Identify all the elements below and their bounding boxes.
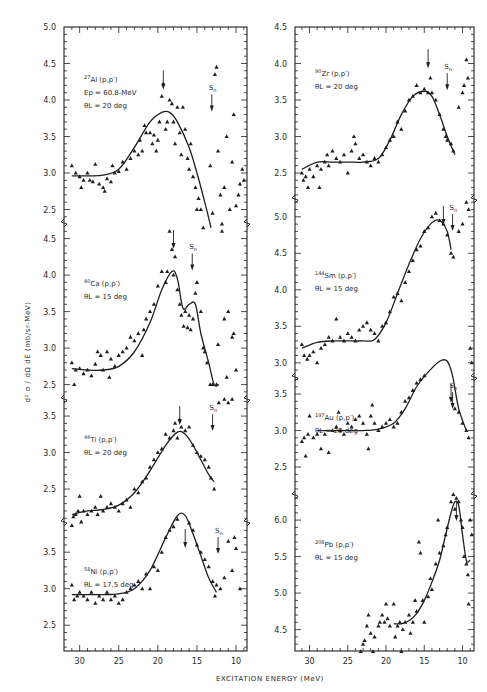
sn-threshold-label: Sn xyxy=(189,243,197,252)
y-tick-label: 3.0 xyxy=(43,585,56,594)
x-axis-title: EXCITATION ENERGY (MeV) xyxy=(216,675,324,683)
nucleus-reaction-label: 144Sm (p,p′) xyxy=(315,270,356,280)
nucleus-reaction-label: 27Al (p,p′) xyxy=(84,74,118,84)
panel-46Ti: 3.53.02.5Sn46Ti (p,p′)θL = 20 deg xyxy=(43,395,250,527)
sn-threshold-label: Sn xyxy=(209,84,217,93)
y-tick-label: 3.5 xyxy=(274,390,287,399)
sn-threshold-label: Sn xyxy=(450,382,458,391)
nucleus-reaction-label: 46Ti (p,p′) xyxy=(84,434,117,444)
scattering-angle-label: θL = 20 deg xyxy=(84,449,127,457)
y-tick-label: 5.0 xyxy=(274,589,287,598)
x-tick-label: 30 xyxy=(75,657,85,666)
y-tick-label: 3.5 xyxy=(274,96,287,105)
y-tick-label: 2.5 xyxy=(43,206,56,215)
nucleus-reaction-label: 90Zr (p,p′) xyxy=(315,68,350,78)
y-tick-label: 5.0 xyxy=(43,23,56,32)
y-tick-label: 2.5 xyxy=(274,463,287,472)
scattering-angle-label: θL = 17.5 deg xyxy=(84,581,134,589)
y-tick-label: 3.5 xyxy=(43,308,56,317)
panel-208Pb: 6.05.55.04.5208Pb (p,p′)θL = 15 deg xyxy=(274,491,477,653)
sn-threshold-label: Sn xyxy=(450,204,458,213)
scattering-angle-label: θL = 15 deg xyxy=(315,554,358,562)
data-points xyxy=(300,200,474,364)
fit-curve xyxy=(302,91,455,169)
x-tick-label: 20 xyxy=(381,657,391,666)
plot-layer: 30252015105.04.54.03.53.02.5Sn27Al (p,p′… xyxy=(43,23,477,666)
spectra-column-1: 30252015105.04.54.03.53.02.5Sn27Al (p,p′… xyxy=(43,23,250,666)
panel-90Zr: 4.54.03.53.02.5Sn90Zr (p,p′)θL = 20 deg xyxy=(274,23,474,195)
plot-frame xyxy=(64,27,247,651)
y-tick-label: 4.5 xyxy=(43,235,56,244)
y-tick-label: 4.5 xyxy=(274,626,287,635)
nucleus-reaction-label: 58Ni (p,p′) xyxy=(84,566,118,576)
y-tick-label: 3.0 xyxy=(274,427,287,436)
y-tick-label: 4.0 xyxy=(274,60,287,69)
scattering-angle-label: θL = 20 deg xyxy=(315,427,358,435)
nucleus-reaction-label: 40Ca (p,p′) xyxy=(84,278,120,288)
y-axis-title: d² σ / dΩ dE (mb/sr-MeV) xyxy=(24,301,32,402)
y-tick-label: 2.5 xyxy=(43,485,56,494)
y-tick-label: 2.5 xyxy=(274,169,287,178)
x-tick-label: 25 xyxy=(114,657,124,666)
y-tick-label: 4.0 xyxy=(274,286,287,295)
x-tick-label: 25 xyxy=(343,657,353,666)
y-tick-label: 5.0 xyxy=(274,213,287,222)
x-tick-label: 10 xyxy=(457,657,467,666)
sn-threshold-label: Sn xyxy=(210,404,218,413)
y-tick-label: 3.0 xyxy=(274,133,287,142)
panel-58Ni: 3.53.02.5Sn58Ni (p,p′)θL = 17.5 deg xyxy=(43,513,250,647)
nucleus-reaction-label: 208Pb (p,p′) xyxy=(315,539,354,549)
y-tick-label: 3.5 xyxy=(43,548,56,557)
panel-40Ca: 4.54.03.53.02.5Sn40Ca (p,p′)θL = 15 deg xyxy=(43,219,250,404)
y-tick-label: 3.5 xyxy=(43,133,56,142)
y-tick-label: 2.5 xyxy=(43,621,56,630)
y-tick-label: 3.5 xyxy=(43,412,56,421)
scattering-angle-label: θL = 15 deg xyxy=(315,285,358,293)
y-tick-label: 4.0 xyxy=(43,96,56,105)
y-tick-label: 3.0 xyxy=(274,359,287,368)
y-tick-label: 4.5 xyxy=(274,23,287,32)
sn-threshold-label: Sn xyxy=(444,63,452,72)
x-tick-label: 15 xyxy=(192,657,202,666)
y-tick-label: 3.0 xyxy=(43,449,56,458)
spectra-column-2: 30252015104.54.03.53.02.5Sn90Zr (p,p′)θL… xyxy=(274,23,477,666)
excitation-energy-spectra-figure: 30252015105.04.54.03.53.02.5Sn27Al (p,p′… xyxy=(0,0,487,692)
x-tick-label: 20 xyxy=(153,657,163,666)
y-tick-label: 4.0 xyxy=(43,271,56,280)
y-tick-label: 3.0 xyxy=(43,169,56,178)
y-tick-label: 4.5 xyxy=(274,249,287,258)
y-tick-label: 3.5 xyxy=(274,322,287,331)
y-tick-label: 6.0 xyxy=(274,516,287,525)
sn-threshold-label: Sn xyxy=(215,527,223,536)
y-tick-label: 4.5 xyxy=(43,60,56,69)
panel-197Au: 3.53.02.5Sn197Au (p,p′)θL = 20 deg xyxy=(274,360,477,489)
y-tick-label: 3.0 xyxy=(43,344,56,353)
x-tick-label: 10 xyxy=(231,657,241,666)
fit-curve xyxy=(72,271,219,386)
x-tick-label: 15 xyxy=(419,657,429,666)
y-tick-label: 2.5 xyxy=(43,381,56,390)
fit-curve xyxy=(302,220,451,349)
x-tick-label: 30 xyxy=(304,657,314,666)
beam-energy-label: Ep = 60.8-MeV xyxy=(84,89,137,97)
scattering-angle-label: θL = 20 deg xyxy=(84,102,127,110)
y-tick-label: 5.5 xyxy=(274,553,287,562)
panel-144Sm: 5.04.54.03.53.0Sn144Sm (p,p′)θL = 15 deg xyxy=(274,195,477,370)
panel-27Al: 5.04.54.03.53.02.5Sn27Al (p,p′)Ep = 60.8… xyxy=(43,23,247,229)
fit-curve xyxy=(394,501,470,624)
scattering-angle-label: θL = 20 deg xyxy=(315,83,358,91)
nucleus-reaction-label: 197Au (p,p′) xyxy=(315,412,354,422)
scattering-angle-label: θL = 15 deg xyxy=(84,293,127,301)
